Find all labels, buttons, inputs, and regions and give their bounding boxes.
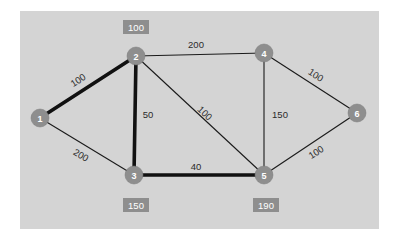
value-box-label-node-3: 150 bbox=[128, 200, 144, 211]
node-label-3: 3 bbox=[131, 171, 136, 181]
edge-weight-label-4-6: 100 bbox=[306, 66, 325, 84]
edge-1-2 bbox=[40, 56, 136, 118]
edge-weight-label-2-4: 200 bbox=[188, 39, 204, 50]
node-label-4: 4 bbox=[261, 49, 266, 59]
edge-weight-label-2-3: 50 bbox=[143, 109, 154, 120]
node-label-5: 5 bbox=[261, 171, 266, 181]
edge-weight-label-1-2: 100 bbox=[68, 71, 87, 89]
node-label-2: 2 bbox=[133, 52, 138, 62]
edge-weight-label-2-5: 100 bbox=[195, 104, 214, 123]
node-label-1: 1 bbox=[37, 114, 42, 124]
graph-diagram-screenshot: 1002005020010015010010040 100150190 1234… bbox=[0, 0, 400, 246]
edge-weight-label-5-6: 100 bbox=[306, 143, 325, 161]
node-label-6: 6 bbox=[354, 109, 359, 119]
edge-weight-label-3-5: 40 bbox=[191, 161, 202, 172]
edge-5-6 bbox=[264, 113, 357, 175]
edge-weight-label-4-5: 150 bbox=[272, 109, 288, 120]
edge-1-3 bbox=[40, 118, 134, 175]
value-box-label-node-2: 100 bbox=[128, 22, 144, 33]
edge-2-3 bbox=[134, 56, 136, 175]
value-box-label-node-5: 190 bbox=[258, 200, 274, 211]
edge-weight-label-1-3: 200 bbox=[71, 146, 90, 164]
edge-2-4 bbox=[136, 53, 264, 56]
edge-4-6 bbox=[264, 53, 357, 113]
graph-svg: 1002005020010015010010040 100150190 1234… bbox=[0, 0, 400, 246]
edge-labels-layer: 1002005020010015010010040 bbox=[68, 39, 325, 172]
